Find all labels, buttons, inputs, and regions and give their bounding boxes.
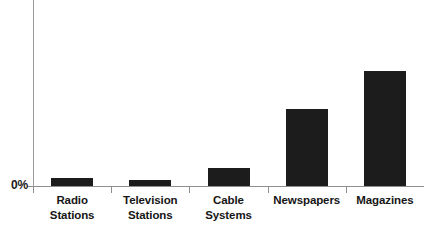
bar-television-stations — [129, 180, 171, 186]
x-axis-label-television-stations: TelevisionStations — [111, 193, 189, 234]
x-axis-label-newspapers: Newspapers — [268, 193, 346, 234]
label-line-1: Newspapers — [273, 194, 340, 206]
x-axis-category-labels: RadioStationsTelevisionStationsCableSyst… — [33, 193, 424, 234]
bar-magazines — [364, 71, 406, 186]
x-axis-label-cable-systems: CableSystems — [189, 193, 267, 234]
label-line-1: Magazines — [356, 194, 413, 206]
label-line-1: Cable — [213, 194, 244, 206]
label-line-2: Stations — [111, 208, 189, 223]
label-line-1: Radio — [56, 194, 87, 206]
label-line-1: Television — [123, 194, 177, 206]
x-axis-line — [33, 186, 424, 187]
label-line-2: Systems — [189, 208, 267, 223]
bar-newspapers — [286, 109, 328, 186]
bar-radio-stations — [51, 178, 93, 186]
x-axis-label-magazines: Magazines — [346, 193, 424, 234]
bar-cable-systems — [208, 168, 250, 186]
y-axis-tick-label-0: 0% — [11, 178, 28, 192]
bar-chart: 0% RadioStationsTelevisionStationsCableS… — [0, 0, 424, 234]
plot-area — [33, 0, 424, 186]
x-axis-label-radio-stations: RadioStations — [33, 193, 111, 234]
label-line-2: Stations — [33, 208, 111, 223]
